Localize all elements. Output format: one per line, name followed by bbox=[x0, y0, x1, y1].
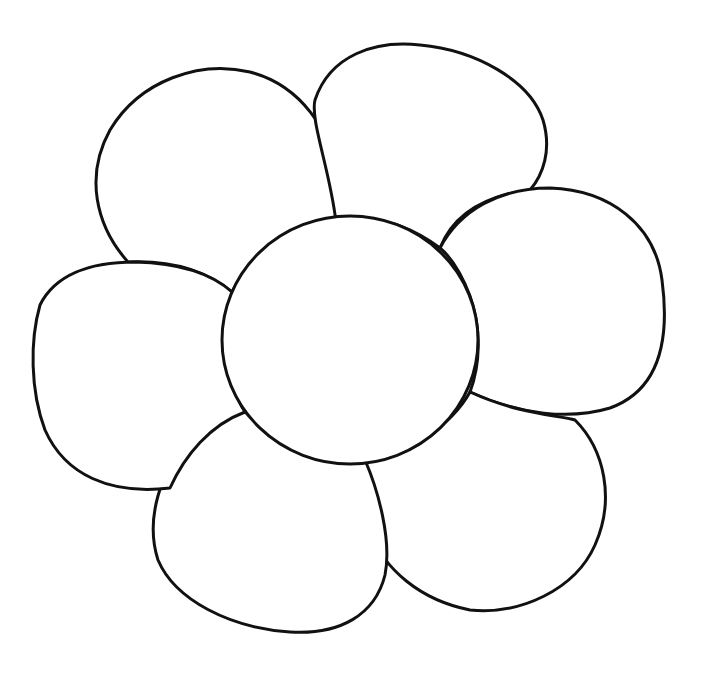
flower-center bbox=[222, 216, 478, 464]
flower-drawing: Flower outline coloring page bbox=[0, 0, 709, 676]
right-petal bbox=[440, 188, 664, 414]
flower-svg bbox=[0, 0, 709, 676]
